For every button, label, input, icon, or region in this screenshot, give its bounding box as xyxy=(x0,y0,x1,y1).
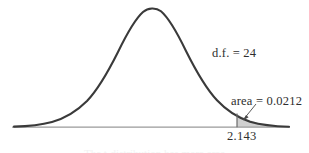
degrees-of-freedom-label: d.f. = 24 xyxy=(212,47,256,60)
t-distribution-figure: d.f. = 24 area = 0.0212 2.143 The t-dist… xyxy=(0,0,309,153)
figure-caption: The t-distribution has more area xyxy=(0,147,309,153)
x-axis-tick-label-critical-value: 2.143 xyxy=(227,130,257,143)
distribution-plot xyxy=(0,0,309,153)
density-curve xyxy=(14,8,289,126)
tail-area-label: area = 0.0212 xyxy=(231,95,302,108)
